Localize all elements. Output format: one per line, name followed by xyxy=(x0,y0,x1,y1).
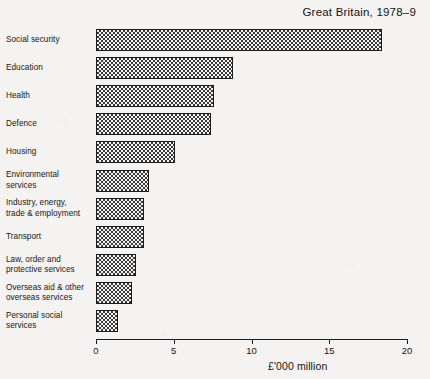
bar-row xyxy=(96,226,407,248)
chart-title: Great Britain, 1978–9 xyxy=(302,6,416,18)
category-label-line: Overseas aid & other xyxy=(6,283,92,293)
x-axis-tick-label: 10 xyxy=(246,345,257,356)
x-axis-tick xyxy=(407,339,408,344)
bar-row xyxy=(96,198,407,220)
category-label: Health xyxy=(6,91,92,101)
category-label-line: Defence xyxy=(6,119,92,129)
bar xyxy=(96,57,233,79)
category-label-line: Industry, energy, xyxy=(6,198,92,208)
x-axis-tick-label: 20 xyxy=(402,345,413,356)
bar xyxy=(96,141,175,163)
category-label-line: Social security xyxy=(6,35,92,45)
category-label-line: Environmental xyxy=(6,170,92,180)
bar-row xyxy=(96,282,407,304)
category-label: Personal socialservices xyxy=(6,311,92,331)
x-axis-tick xyxy=(252,339,253,344)
bar-row xyxy=(96,57,407,79)
bar xyxy=(96,254,136,276)
bar-row xyxy=(96,141,407,163)
bar-row xyxy=(96,85,407,107)
category-label: Industry, energy,trade & employment xyxy=(6,198,92,218)
category-label: Transport xyxy=(6,232,92,242)
bar xyxy=(96,198,144,220)
x-axis-label: £'000 million xyxy=(268,360,327,372)
bar xyxy=(96,282,132,304)
x-axis-tick-label: 0 xyxy=(93,345,98,356)
bar-row xyxy=(96,113,407,135)
category-label-line: services xyxy=(6,321,92,331)
bar-row xyxy=(96,254,407,276)
category-label-line: protective services xyxy=(6,265,92,275)
category-label: Social security xyxy=(6,35,92,45)
x-axis-tick xyxy=(174,339,175,344)
bar xyxy=(96,85,214,107)
category-label: Housing xyxy=(6,147,92,157)
bar-row xyxy=(96,170,407,192)
bar xyxy=(96,170,149,192)
x-axis-tick xyxy=(96,339,97,344)
bar-chart: Great Britain, 1978–9 05101520 £'000 mil… xyxy=(0,0,430,379)
x-axis-tick-label: 15 xyxy=(324,345,335,356)
bar xyxy=(96,310,118,332)
x-axis-tick-label: 5 xyxy=(171,345,176,356)
category-label-line: Law, order and xyxy=(6,255,92,265)
category-label: Law, order andprotective services xyxy=(6,255,92,275)
bar xyxy=(96,226,144,248)
category-label: Defence xyxy=(6,119,92,129)
category-label-line: Transport xyxy=(6,232,92,242)
category-label: Education xyxy=(6,63,92,73)
bar-row xyxy=(96,29,407,51)
bar xyxy=(96,29,382,51)
plot-area xyxy=(96,29,406,338)
category-label-line: overseas services xyxy=(6,293,92,303)
bar-row xyxy=(96,310,407,332)
bar xyxy=(96,113,211,135)
category-label-line: trade & employment xyxy=(6,209,92,219)
category-label-line: Education xyxy=(6,63,92,73)
category-label-line: Housing xyxy=(6,147,92,157)
category-label: Overseas aid & otheroverseas services xyxy=(6,283,92,303)
category-label-line: services xyxy=(6,181,92,191)
category-label-line: Personal social xyxy=(6,311,92,321)
x-axis-tick xyxy=(329,339,330,344)
category-label: Environmentalservices xyxy=(6,170,92,190)
category-label-line: Health xyxy=(6,91,92,101)
